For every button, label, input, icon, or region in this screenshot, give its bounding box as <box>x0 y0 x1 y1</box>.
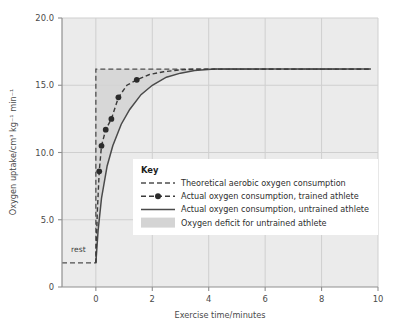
oxygen-uptake-chart: 0246810 05.010.015.020.0 Exercise time/m… <box>0 0 401 325</box>
x-tick-label: 6 <box>262 294 267 304</box>
data-point-marker <box>108 116 114 122</box>
y-axis-label: Oxygen uptake/cm³ kg⁻¹ min⁻¹ <box>8 89 18 216</box>
x-axis-tick-labels: 0246810 <box>93 294 383 304</box>
shaded-swatch-icon <box>141 218 175 228</box>
dot-marker-icon <box>155 193 161 199</box>
data-point-marker <box>134 77 140 83</box>
data-point-marker <box>99 143 105 149</box>
legend-item-label: Theoretical aerobic oxygen consumption <box>180 178 346 188</box>
x-tick-label: 4 <box>206 294 211 304</box>
chart-legend: Key Theoretical aerobic oxygen consumpti… <box>133 159 378 235</box>
legend-item: Oxygen deficit for untrained athlete <box>141 218 327 228</box>
y-tick-label: 10.0 <box>35 148 54 158</box>
x-tick-label: 10 <box>373 294 384 304</box>
legend-title: Key <box>141 165 159 175</box>
data-point-marker <box>96 168 102 174</box>
y-axis-tick-labels: 05.010.015.020.0 <box>35 13 54 292</box>
y-tick-label: 5.0 <box>41 215 54 225</box>
x-tick-label: 0 <box>93 294 98 304</box>
y-tick-label: 15.0 <box>35 80 54 90</box>
x-tick-label: 8 <box>319 294 324 304</box>
x-axis-label: Exercise time/minutes <box>174 310 265 320</box>
rest-annotation: rest <box>71 245 86 254</box>
y-tick-label: 0 <box>49 282 54 292</box>
x-tick-label: 2 <box>150 294 155 304</box>
data-point-marker <box>116 94 122 100</box>
legend-item-label: Actual oxygen consumption, trained athle… <box>181 191 359 201</box>
legend-item-label: Actual oxygen consumption, untrained ath… <box>181 204 369 214</box>
y-tick-label: 20.0 <box>35 13 54 23</box>
legend-item-label: Oxygen deficit for untrained athlete <box>181 218 327 228</box>
data-point-marker <box>103 127 109 133</box>
